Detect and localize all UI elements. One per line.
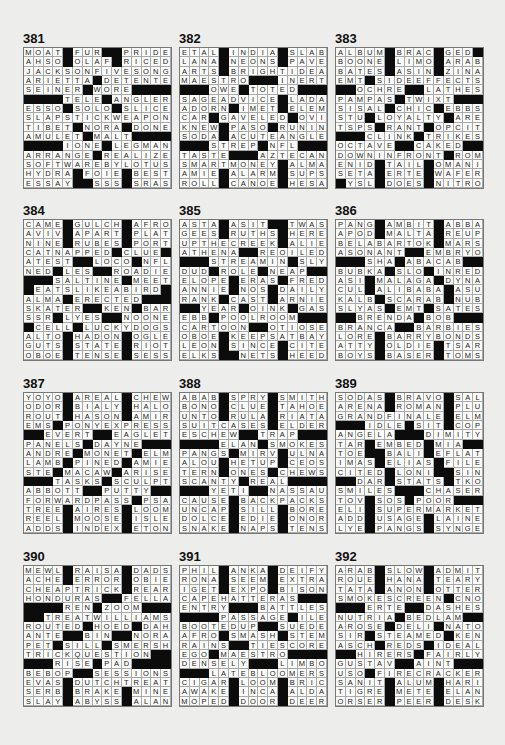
letter-cell: I	[356, 160, 366, 169]
letter-cell: A	[336, 402, 346, 411]
letter-cell: E	[132, 594, 142, 603]
letter-cell: L	[414, 622, 424, 631]
letter-cell: N	[239, 323, 249, 332]
letter-cell: C	[414, 669, 424, 678]
letter-cell: B	[473, 295, 483, 304]
letter-cell: T	[209, 585, 219, 594]
letter-cell: A	[239, 295, 249, 304]
letter-cell: O	[209, 402, 219, 411]
black-square	[53, 313, 63, 322]
letter-cell: A	[375, 402, 385, 411]
letter-cell: U	[346, 659, 356, 668]
letter-cell: M	[288, 313, 298, 322]
black-square	[161, 486, 171, 495]
letter-cell: S	[365, 123, 375, 132]
black-square	[132, 85, 142, 94]
letter-cell: A	[346, 220, 356, 229]
letter-cell: R	[83, 575, 93, 584]
letter-cell: T	[444, 95, 454, 104]
black-square	[122, 239, 132, 248]
letter-cell: T	[444, 659, 454, 668]
letter-cell: A	[209, 220, 219, 229]
letter-cell: A	[151, 585, 161, 594]
letter-cell: R	[239, 67, 249, 76]
letter-cell: S	[473, 104, 483, 113]
letter-cell: L	[93, 641, 103, 650]
letter-cell: S	[200, 151, 210, 160]
letter-cell: S	[209, 229, 219, 238]
letter-cell: Y	[473, 650, 483, 659]
letter-cell: Y	[463, 248, 473, 257]
letter-cell: E	[219, 276, 229, 285]
letter-cell: L	[405, 267, 415, 276]
black-square	[161, 85, 171, 94]
letter-cell: O	[239, 76, 249, 85]
letter-cell: O	[258, 697, 268, 706]
letter-cell: I	[414, 341, 424, 350]
letter-cell: R	[346, 566, 356, 575]
letter-cell: U	[44, 412, 54, 421]
letter-cell: E	[63, 449, 73, 458]
letter-cell: S	[102, 697, 112, 706]
letter-cell: O	[414, 239, 424, 248]
letter-cell: O	[142, 323, 152, 332]
letter-cell: T	[405, 95, 415, 104]
black-square	[93, 659, 103, 668]
letter-cell: N	[395, 524, 405, 533]
letter-cell: P	[24, 440, 34, 449]
letter-cell: L	[132, 505, 142, 514]
letter-cell: B	[336, 323, 346, 332]
letter-cell: N	[405, 412, 415, 421]
letter-cell: B	[434, 332, 444, 341]
letter-cell: P	[249, 622, 259, 631]
letter-cell: L	[200, 179, 210, 188]
letter-cell: S	[473, 85, 483, 94]
letter-cell: S	[229, 341, 239, 350]
letter-cell: N	[268, 486, 278, 495]
letter-cell: W	[53, 496, 63, 505]
letter-cell: M	[239, 449, 249, 458]
black-square	[219, 123, 229, 132]
letter-cell: H	[434, 486, 444, 495]
letter-cell: C	[24, 585, 34, 594]
letter-cell: A	[395, 160, 405, 169]
letter-cell: A	[346, 678, 356, 687]
black-square	[93, 486, 103, 495]
letter-cell: A	[83, 594, 93, 603]
letter-cell: O	[405, 468, 415, 477]
letter-cell: A	[24, 449, 34, 458]
letter-cell: C	[219, 421, 229, 430]
letter-cell: S	[278, 393, 288, 402]
crossword-grid: ASTAASITTWASGEESRUTHSHEREUPTHECREEKALIEA…	[179, 219, 328, 361]
letter-cell: M	[44, 295, 54, 304]
letter-cell: N	[34, 449, 44, 458]
letter-cell: A	[395, 678, 405, 687]
letter-cell: P	[365, 95, 375, 104]
black-square	[336, 650, 346, 659]
letter-cell: E	[53, 440, 63, 449]
letter-cell: E	[63, 132, 73, 141]
letter-cell: S	[161, 351, 171, 360]
letter-cell: I	[405, 57, 415, 66]
letter-cell: H	[288, 468, 298, 477]
letter-cell: M	[161, 505, 171, 514]
letter-cell: L	[249, 313, 259, 322]
letter-cell: I	[44, 650, 54, 659]
letter-cell: S	[180, 421, 190, 430]
letter-cell: E	[268, 641, 278, 650]
letter-cell: F	[288, 276, 298, 285]
letter-cell: E	[298, 669, 308, 678]
letter-cell: A	[161, 594, 171, 603]
letter-cell: C	[424, 104, 434, 113]
letter-cell: Y	[112, 160, 122, 169]
letter-cell: A	[180, 67, 190, 76]
letter-cell: S	[34, 104, 44, 113]
black-square	[122, 123, 132, 132]
black-square	[63, 524, 73, 533]
black-square	[278, 179, 288, 188]
letter-cell: A	[249, 257, 259, 266]
letter-cell: E	[142, 276, 152, 285]
letter-cell: T	[122, 449, 132, 458]
letter-cell: S	[239, 505, 249, 514]
black-square	[385, 468, 395, 477]
